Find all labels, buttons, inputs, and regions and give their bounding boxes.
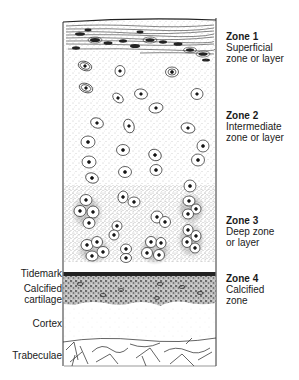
zone1-title: Zone 1: [226, 31, 284, 42]
zone3-label: Zone 3 Deep zone or layer: [226, 215, 274, 248]
zone2-title: Zone 2: [226, 110, 284, 121]
zone1-desc-line1: Superficial: [226, 42, 284, 53]
zone4-calcified-cartilage: [64, 276, 216, 306]
zone4-desc-line1: Calcified: [226, 284, 264, 295]
tidemark-label: Tidemark: [21, 268, 62, 279]
tidemark-line: [64, 272, 216, 276]
zone3-title: Zone 3: [226, 215, 274, 226]
trabeculae-layer: [63, 338, 216, 366]
zone2-label: Zone 2 Intermediate zone or layer: [226, 110, 284, 143]
zone1-label: Zone 1 Superficial zone or layer: [226, 31, 284, 64]
trabeculae-label: Trabeculae: [12, 350, 62, 361]
zone4-title: Zone 4: [226, 273, 264, 284]
calcified-cartilage-label-line2: cartilage: [24, 294, 62, 305]
zone2-desc-line1: Intermediate: [226, 121, 284, 132]
zone3-desc-line2: or layer: [226, 237, 274, 248]
zone3-desc-line1: Deep zone: [226, 226, 274, 237]
zone4-desc-line2: zone: [226, 295, 264, 306]
calcified-cartilage-label-line1: Calcified: [24, 283, 62, 294]
zone2-desc-line2: zone or layer: [226, 132, 284, 143]
calcified-cartilage-label: Calcified cartilage: [24, 283, 62, 305]
zone1-desc-line2: zone or layer: [226, 53, 284, 64]
zone1-superficial-layer: [63, 19, 216, 62]
zone4-label: Zone 4 Calcified zone: [226, 273, 264, 306]
cartilage-zones-figure: Zone 1 Superficial zone or layer Zone 2 …: [0, 0, 299, 380]
cortex-label: Cortex: [33, 318, 62, 329]
cortex-layer: [64, 306, 216, 339]
